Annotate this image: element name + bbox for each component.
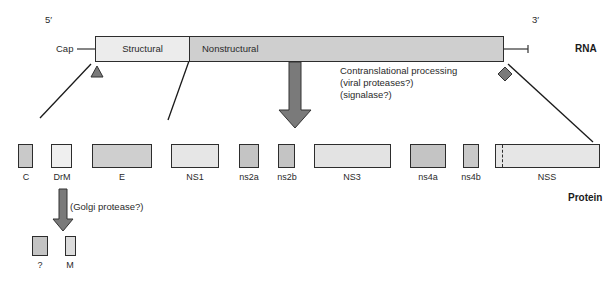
expansion-line-structural	[168, 61, 189, 120]
protein-label: NS3	[332, 172, 372, 182]
diamond-marker-icon	[498, 67, 512, 81]
protein-ns2a	[239, 144, 259, 168]
golgi-annotation: (Golgi protease?)	[70, 201, 143, 212]
protein-label: DrM	[46, 172, 78, 182]
protein-label: E	[102, 172, 142, 182]
product-unknown	[32, 236, 48, 256]
five-prime-label: 5′	[45, 14, 52, 25]
protein-label: ns4a	[411, 172, 445, 182]
protein-label: ns2a	[232, 172, 266, 182]
protein-row-label: Protein	[568, 192, 602, 203]
processing-annotation: Contranslational processing (viral prote…	[340, 65, 457, 101]
processing-arrow-icon	[279, 62, 311, 128]
expansion-line-right	[508, 64, 593, 142]
protein-DrM	[51, 144, 72, 168]
structural-region: Structural	[95, 36, 190, 62]
processing-line-3: (signalase?)	[340, 89, 457, 101]
processing-line-1: Contranslational processing	[340, 65, 457, 77]
protein-label: NS1	[175, 172, 215, 182]
protein-label: ns2b	[270, 172, 304, 182]
protein-ns2b	[278, 144, 295, 168]
protein-E	[92, 144, 152, 168]
protein-NSS	[495, 144, 600, 168]
expansion-line-left	[40, 64, 91, 118]
nonstructural-region: Nonstructural	[189, 36, 504, 62]
protein-label: ns4b	[454, 172, 488, 182]
rna-row-label: RNA	[575, 43, 597, 54]
protein-NS3	[314, 144, 391, 168]
product-label: M	[54, 260, 86, 270]
protein-NS1	[171, 144, 219, 168]
structural-label: Structural	[96, 43, 189, 54]
protein-ns4b	[463, 144, 479, 168]
processing-line-2: (viral proteases?)	[340, 77, 457, 89]
protein-label: C	[10, 172, 42, 182]
product-label: ?	[24, 260, 56, 270]
protein-C	[18, 144, 33, 168]
cap-label: Cap	[56, 43, 73, 54]
protein-label: NSS	[527, 172, 567, 182]
product-M	[65, 236, 76, 256]
nonstructural-label: Nonstructural	[202, 43, 259, 54]
triangle-marker-icon	[91, 66, 103, 77]
protein-ns4a	[410, 144, 446, 168]
nss-dashed-divider	[502, 145, 503, 167]
three-prime-label: 3′	[532, 14, 539, 25]
